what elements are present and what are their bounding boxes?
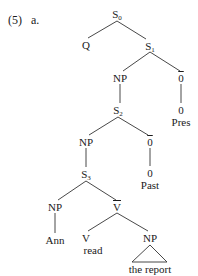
node-label: NP	[79, 136, 93, 148]
node-label: 0	[147, 136, 153, 148]
node-label: Past	[141, 179, 159, 191]
node-label: V	[113, 201, 121, 213]
node-label: Pres	[172, 116, 191, 128]
node-label: Q	[82, 39, 90, 51]
tree-node-zero1: 0	[178, 105, 184, 116]
node-label: 0	[178, 72, 184, 84]
tree-node-past: Past	[141, 180, 159, 191]
tree-node-read: read	[84, 245, 103, 256]
node-label: NP	[113, 72, 127, 84]
triangle-abbreviation	[132, 245, 167, 262]
tree-node-vbar: V	[113, 202, 121, 213]
node-label: 0	[178, 104, 184, 116]
tree-node-s3: S3	[81, 169, 91, 184]
node-label: V	[82, 232, 90, 244]
node-label: Ann	[46, 234, 65, 246]
node-subscript: 3	[87, 174, 91, 182]
tree-node-report: the report	[129, 264, 171, 275]
tree-node-ann: Ann	[46, 235, 65, 246]
tree-node-s0: S0	[112, 9, 122, 24]
tree-node-obar1: 0	[178, 73, 184, 84]
node-label: the report	[129, 263, 171, 275]
node-label: NP	[143, 232, 157, 244]
node-subscript: 1	[151, 46, 155, 54]
tree-node-s1: S1	[145, 41, 155, 56]
tree-node-pres: Pres	[172, 117, 191, 128]
tree-edge	[88, 213, 117, 231]
tree-node-np2: NP	[79, 137, 93, 148]
tree-node-np3: NP	[48, 202, 62, 213]
tree-node-obar2: 0	[147, 137, 153, 148]
node-subscript: 2	[119, 110, 123, 118]
tree-node-q: Q	[82, 40, 90, 51]
tree-node-v: V	[82, 233, 90, 244]
node-label: NP	[48, 201, 62, 213]
node-label: 0	[147, 167, 153, 179]
tree-node-np4: NP	[143, 233, 157, 244]
tree-node-s2: S2	[113, 105, 123, 120]
tree-node-np1: NP	[113, 73, 127, 84]
syntax-tree-lines	[0, 0, 198, 276]
node-label: read	[84, 244, 103, 256]
tree-node-zero2: 0	[147, 168, 153, 179]
tree-edge	[117, 213, 148, 231]
node-subscript: 0	[118, 14, 122, 22]
